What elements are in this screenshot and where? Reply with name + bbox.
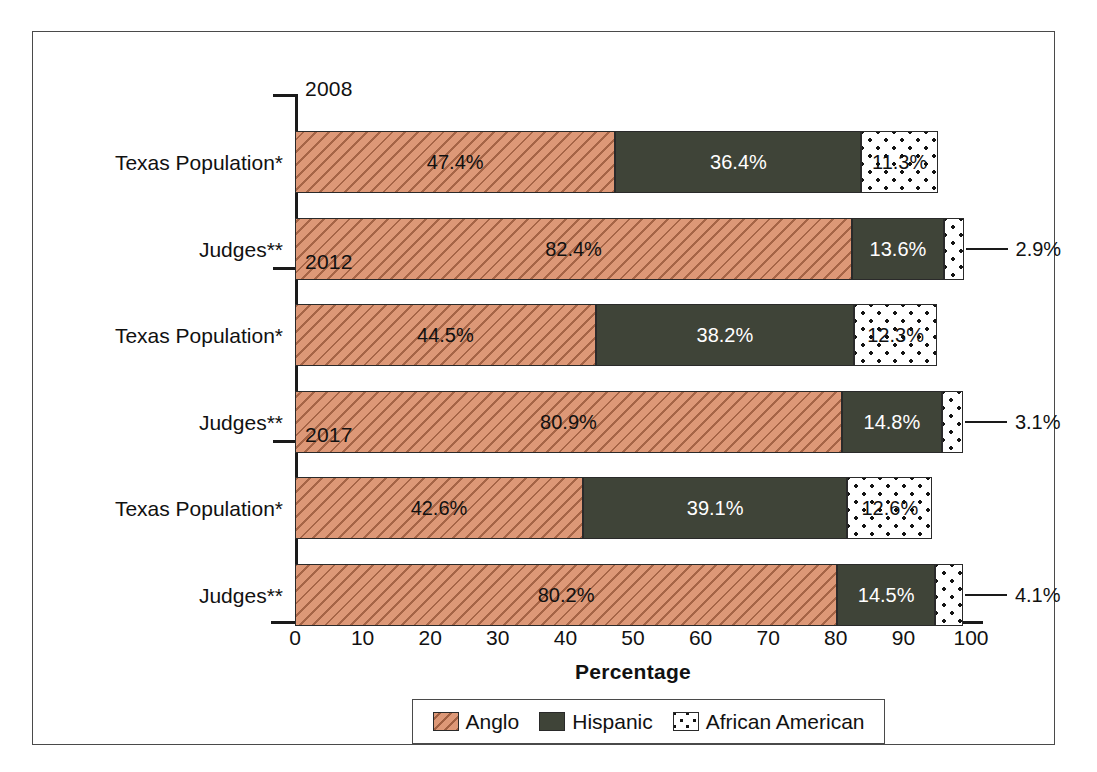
bar-value-label: 82.4% <box>545 239 602 259</box>
bar-segment-anglo[interactable]: 80.2% <box>295 564 837 626</box>
callout-leader-line <box>966 248 1008 250</box>
year-group-tick <box>273 94 295 97</box>
x-axis-tick-label: 60 <box>689 627 712 648</box>
bar-segment-hispanic[interactable]: 13.6% <box>852 218 944 280</box>
category-label: Texas Population* <box>0 325 283 346</box>
bar-segment-african[interactable]: 11.3% <box>861 131 937 193</box>
bar-value-label: 14.5% <box>858 585 915 605</box>
legend-item-anglo[interactable]: Anglo <box>433 711 520 732</box>
chart-legend: Anglo Hispanic African American <box>412 699 885 744</box>
year-group-label: 2017 <box>305 424 353 445</box>
category-label: Judges** <box>0 585 283 606</box>
bar-value-label: 80.2% <box>538 585 595 605</box>
x-axis-tick-label: 20 <box>419 627 442 648</box>
bar-value-label: 44.5% <box>417 325 474 345</box>
bar-segment-african[interactable] <box>942 391 963 453</box>
bar-segment-hispanic[interactable]: 36.4% <box>615 131 861 193</box>
bar-value-label: 39.1% <box>687 498 744 518</box>
x-axis-tick-label: 10 <box>351 627 374 648</box>
callout-value-label: 3.1% <box>1015 412 1061 432</box>
x-axis-tick-label: 50 <box>621 627 644 648</box>
x-axis-tick-label: 40 <box>554 627 577 648</box>
bar-segment-african[interactable] <box>944 218 964 280</box>
bar-value-label: 12.3% <box>867 325 924 345</box>
legend-label-anglo: Anglo <box>466 711 520 732</box>
year-group-label: 2012 <box>305 251 353 272</box>
chart-frame: Percentage Anglo Hispanic African Americ… <box>32 31 1055 745</box>
bar-value-label: 12.6% <box>862 498 919 518</box>
callout-leader-line <box>965 421 1007 423</box>
x-axis-tick-label: 80 <box>824 627 847 648</box>
bar-value-label: 42.6% <box>411 498 468 518</box>
x-axis-tick-label: 100 <box>953 627 988 648</box>
stacked-bar: 80.2%14.5%4.1% <box>295 564 1011 626</box>
legend-label-african-american: African American <box>706 711 865 732</box>
category-label: Judges** <box>0 412 283 433</box>
bar-value-label: 11.3% <box>872 152 927 172</box>
bar-segment-african[interactable]: 12.6% <box>847 477 932 539</box>
bar-segment-african[interactable] <box>935 564 963 626</box>
bar-segment-hispanic[interactable]: 14.5% <box>837 564 935 626</box>
callout-leader-line <box>965 594 1007 596</box>
stacked-bar: 44.5%38.2%12.3% <box>295 304 1011 366</box>
bar-segment-anglo[interactable]: 80.9% <box>295 391 842 453</box>
african-american-swatch-icon <box>673 712 699 731</box>
bar-segment-hispanic[interactable]: 39.1% <box>583 477 847 539</box>
x-axis-tick-label: 70 <box>757 627 780 648</box>
bar-value-label: 36.4% <box>710 152 767 172</box>
value-callout: 2.9% <box>966 239 1062 259</box>
callout-value-label: 4.1% <box>1015 585 1061 605</box>
bar-value-label: 80.9% <box>540 412 597 432</box>
bar-value-label: 14.8% <box>864 412 921 432</box>
stacked-bar: 82.4%13.6%2.9% <box>295 218 1011 280</box>
value-callout: 4.1% <box>965 585 1061 605</box>
x-axis-title: Percentage <box>295 660 971 684</box>
category-label: Texas Population* <box>0 498 283 519</box>
stacked-bar: 80.9%14.8%3.1% <box>295 391 1011 453</box>
stacked-bar: 47.4%36.4%11.3% <box>295 131 1011 193</box>
x-axis-tick-label: 90 <box>892 627 915 648</box>
bar-value-label: 38.2% <box>697 325 754 345</box>
bar-segment-african[interactable]: 12.3% <box>854 304 937 366</box>
value-callout: 3.1% <box>965 412 1061 432</box>
x-axis-tick-label: 30 <box>486 627 509 648</box>
legend-label-hispanic: Hispanic <box>572 711 653 732</box>
bar-segment-anglo[interactable]: 82.4% <box>295 218 852 280</box>
bar-segment-anglo[interactable]: 44.5% <box>295 304 596 366</box>
anglo-swatch-icon <box>433 712 459 731</box>
bar-value-label: 47.4% <box>427 152 484 172</box>
legend-item-hispanic[interactable]: Hispanic <box>539 711 653 732</box>
hispanic-swatch-icon <box>539 712 565 731</box>
category-label: Judges** <box>0 239 283 260</box>
stacked-bar: 42.6%39.1%12.6% <box>295 477 1011 539</box>
year-group-tick <box>273 440 295 443</box>
year-group-tick <box>273 267 295 270</box>
bar-segment-hispanic[interactable]: 14.8% <box>842 391 942 453</box>
legend-item-african-american[interactable]: African American <box>673 711 865 732</box>
year-group-label: 2008 <box>305 78 353 99</box>
bar-segment-anglo[interactable]: 42.6% <box>295 477 583 539</box>
bar-value-label: 13.6% <box>870 239 927 259</box>
callout-value-label: 2.9% <box>1016 239 1062 259</box>
bar-segment-anglo[interactable]: 47.4% <box>295 131 615 193</box>
category-label: Texas Population* <box>0 152 283 173</box>
x-axis-tick-label: 0 <box>289 627 301 648</box>
bar-segment-hispanic[interactable]: 38.2% <box>596 304 854 366</box>
